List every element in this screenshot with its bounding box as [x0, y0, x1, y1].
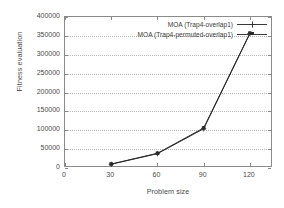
y-tick-label: 300000: [0, 50, 60, 57]
chart-legend: MOA (Trap4-overlap1) MOA (Trap4-permuted…: [101, 19, 267, 39]
series-line: [111, 34, 250, 165]
x-tick-label: 0: [44, 171, 84, 178]
chart-figure: Fitness evaluation Problem size MOA (Tra…: [0, 0, 284, 208]
legend-label: MOA (Trap4-overlap1): [168, 21, 237, 28]
legend-sample-plus-icon: [237, 20, 267, 28]
series-layer: [65, 17, 273, 168]
y-tick-label: 100000: [0, 125, 60, 132]
legend-item: MOA (Trap4-overlap1): [101, 19, 267, 29]
y-tick-label: 400000: [0, 12, 60, 19]
y-tick-label: 250000: [0, 69, 60, 76]
x-tick-label: 30: [90, 171, 130, 178]
y-tick-label: 150000: [0, 106, 60, 113]
y-tick-label: 0: [0, 163, 60, 170]
y-tick-label: 200000: [0, 88, 60, 95]
x-tick-label: 90: [183, 171, 223, 178]
legend-item: MOA (Trap4-permuted-overlap1): [101, 29, 267, 39]
series-line: [111, 33, 250, 164]
y-axis-title: Fitness evaluation: [15, 2, 24, 122]
y-tick-mark: [65, 168, 68, 169]
x-tick-label: 120: [229, 171, 269, 178]
x-tick-label: 60: [136, 171, 176, 178]
legend-label: MOA (Trap4-permuted-overlap1): [138, 31, 237, 38]
data-point-marker: [109, 162, 113, 166]
y-tick-mark: [268, 168, 271, 169]
data-point-marker: [156, 151, 160, 155]
x-axis-title: Problem size: [64, 187, 272, 196]
y-tick-label: 350000: [0, 31, 60, 38]
legend-sample-square-icon: [237, 30, 267, 38]
plot-area: MOA (Trap4-overlap1) MOA (Trap4-permuted…: [64, 16, 272, 167]
data-point-marker: [202, 126, 206, 130]
y-tick-label: 50000: [0, 144, 60, 151]
